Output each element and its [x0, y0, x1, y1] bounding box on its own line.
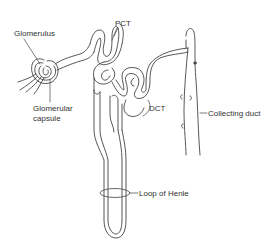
label-dct: DCT [149, 104, 165, 113]
label-pct: PCT [115, 19, 131, 28]
label-loop-of-henle: Loop of Henle [139, 189, 189, 198]
label-collecting-duct: Collecting duct [208, 109, 260, 118]
capsule-neck [55, 44, 90, 64]
glomerular-capsule-shape [32, 59, 58, 84]
label-glomerulus: Glomerulus [14, 29, 55, 38]
glomerulus-vessels [18, 74, 44, 94]
collecting-duct [181, 29, 201, 155]
label-glomerular-capsule-line2: capsule [33, 114, 61, 123]
label-glomerular-capsule-line1: Glomerular [33, 104, 73, 113]
